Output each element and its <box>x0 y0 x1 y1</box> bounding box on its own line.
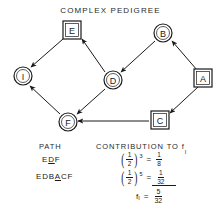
total-fraction: 5 32 <box>153 188 164 204</box>
path-1-post: F <box>55 155 61 164</box>
node-C: C <box>151 111 169 129</box>
edge-A-to-C <box>170 87 198 113</box>
node-D: D <box>104 71 122 89</box>
node-label-F: F <box>65 118 71 128</box>
path-2-post: CF <box>61 172 73 181</box>
edge-E-to-I <box>31 39 63 67</box>
node-label-C: C <box>157 116 164 126</box>
contribution-row-2: ( 1 2 ) 5 = 1 32 <box>120 169 166 186</box>
node-label-B: B <box>160 29 166 39</box>
exponent-1: 3 <box>139 153 142 159</box>
base-numerator-1: 1 <box>126 152 133 160</box>
node-I: I <box>14 67 32 85</box>
path-1-underlined: D <box>48 155 55 164</box>
result-denominator-2: 32 <box>156 178 166 185</box>
contribution-header-subscript: I <box>185 149 187 155</box>
node-A: A <box>194 69 212 87</box>
equals-sign-2: = <box>147 173 152 182</box>
total-inbreeding-row: fI = 5 32 <box>136 188 164 204</box>
edge-A-to-B <box>172 41 197 70</box>
right-paren-1: ) <box>135 151 138 168</box>
result-numerator-2: 1 <box>158 170 165 178</box>
pedigree-diagram: E B I D A <box>0 0 221 138</box>
contribution-header-text: CONTRIBUTION TO f <box>96 142 185 151</box>
pedigree-figure: COMPLEX PEDIGREE E <box>0 0 221 215</box>
right-paren-2: ) <box>135 169 138 186</box>
base-denominator-1: 2 <box>126 160 133 167</box>
result-numerator-1: 1 <box>156 152 163 160</box>
base-denominator-2: 2 <box>126 178 133 185</box>
edge-D-to-F <box>77 89 105 114</box>
edge-D-to-E <box>82 39 105 72</box>
total-denominator: 32 <box>153 197 164 205</box>
edge-B-to-D <box>121 41 155 72</box>
node-label-I: I <box>22 72 25 82</box>
contribution-row-1: ( 1 2 ) 3 = 1 8 <box>120 151 163 168</box>
base-fraction-1: 1 2 <box>126 152 133 167</box>
equals-sign-1: = <box>147 155 152 164</box>
node-B: B <box>154 24 172 42</box>
node-label-E: E <box>69 26 75 36</box>
node-E: E <box>63 21 81 39</box>
f-subscript: I <box>138 195 140 201</box>
total-numerator: 5 <box>155 188 162 197</box>
left-paren-2: ( <box>121 169 124 186</box>
base-numerator-2: 1 <box>126 170 133 178</box>
equals-sign-total: = <box>144 192 149 201</box>
node-label-D: D <box>110 76 117 86</box>
edge-F-to-I <box>30 86 60 114</box>
result-fraction-1: 1 8 <box>156 152 163 167</box>
path-column-header: PATH <box>39 142 62 151</box>
sum-rule <box>152 185 176 186</box>
path-contribution-table: PATH CONTRIBUTION TO fI EDF EDBACF ( 1 2… <box>0 138 221 215</box>
result-fraction-2: 1 32 <box>156 170 166 185</box>
node-label-A: A <box>200 74 206 84</box>
result-denominator-1: 8 <box>156 160 163 167</box>
node-F: F <box>59 113 77 131</box>
path-2-pre: EDB <box>36 172 55 181</box>
path-row-2: EDBACF <box>36 172 73 181</box>
pedigree-nodes: E B I D A <box>14 21 212 131</box>
left-paren-1: ( <box>121 151 124 168</box>
exponent-2: 5 <box>139 171 142 177</box>
base-fraction-2: 1 2 <box>126 170 133 185</box>
path-row-1: EDF <box>42 155 60 164</box>
